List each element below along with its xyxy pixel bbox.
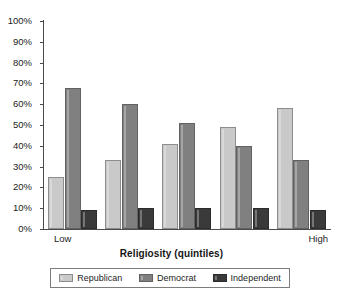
bar-democrat	[65, 88, 81, 229]
bar-republican	[48, 177, 64, 229]
bar-democrat	[236, 146, 252, 229]
x-axis-tick-labels: Low High	[44, 232, 330, 246]
y-axis-tick-label: 70%	[13, 79, 32, 89]
y-axis-tick-label: 90%	[13, 37, 32, 47]
bar-group	[44, 21, 101, 229]
bar-republican	[277, 108, 293, 229]
chart-legend: RepublicanDemocratIndependent	[50, 268, 290, 288]
legend-swatch-independent	[213, 274, 227, 282]
bar-group	[216, 21, 273, 229]
bar-chart-figure: 100%90%80%70%60%50%40%30%20%10%0% Low Hi…	[0, 0, 343, 301]
bar-democrat	[293, 160, 309, 229]
bar-group	[158, 21, 215, 229]
legend-label: Independent	[231, 274, 281, 283]
y-axis-tick-label: 0%	[18, 224, 32, 234]
bar-group	[101, 21, 158, 229]
bar-highlight	[83, 212, 85, 227]
bar-highlight	[50, 179, 52, 227]
x-tick-label-high: High	[308, 232, 328, 246]
bar-independent	[81, 210, 97, 229]
x-tick-label-low: Low	[54, 232, 71, 246]
bar-group	[273, 21, 330, 229]
y-axis-tick-label: 50%	[13, 120, 32, 130]
bar-republican	[220, 127, 236, 229]
y-axis-tick-label: 60%	[13, 99, 32, 109]
bar-highlight	[312, 212, 314, 227]
bar-highlight	[107, 162, 109, 227]
bar-highlight	[279, 110, 281, 227]
bar-highlight	[222, 129, 224, 227]
legend-swatch-highlight	[141, 276, 143, 280]
bar-republican	[105, 160, 121, 229]
bar-highlight	[295, 162, 297, 227]
bar-highlight	[124, 106, 126, 227]
legend-item-independent: Independent	[213, 274, 281, 283]
y-axis-tick-label: 20%	[13, 183, 32, 193]
bar-independent	[253, 208, 269, 229]
x-axis-title: Religiosity (quintiles)	[0, 248, 343, 259]
bar-highlight	[255, 210, 257, 227]
bar-highlight	[140, 210, 142, 227]
bar-democrat	[179, 123, 195, 229]
y-axis-tick-label: 100%	[8, 16, 32, 26]
legend-swatch-highlight	[215, 276, 217, 280]
plot-area: 100%90%80%70%60%50%40%30%20%10%0%	[44, 21, 330, 229]
legend-item-republican: Republican	[59, 274, 122, 283]
legend-swatch-highlight	[61, 276, 63, 280]
bar-independent	[195, 208, 211, 229]
bar-republican	[162, 144, 178, 229]
bar-independent	[310, 210, 326, 229]
y-axis-tick-label: 10%	[13, 203, 32, 213]
legend-label: Republican	[77, 274, 122, 283]
bar-highlight	[67, 90, 69, 227]
bar-highlight	[197, 210, 199, 227]
bar-highlight	[164, 146, 166, 227]
y-axis-tick-mark	[40, 229, 44, 230]
y-axis-tick-label: 40%	[13, 141, 32, 151]
bar-highlight	[181, 125, 183, 227]
y-axis-tick-label: 30%	[13, 162, 32, 172]
bar-highlight	[238, 148, 240, 227]
legend-swatch-republican	[59, 274, 73, 282]
bar-democrat	[122, 104, 138, 229]
x-axis-line	[43, 229, 331, 230]
legend-label: Democrat	[157, 274, 196, 283]
bar-independent	[138, 208, 154, 229]
y-axis-tick-label: 80%	[13, 58, 32, 68]
legend-swatch-democrat	[139, 274, 153, 282]
legend-item-democrat: Democrat	[139, 274, 196, 283]
